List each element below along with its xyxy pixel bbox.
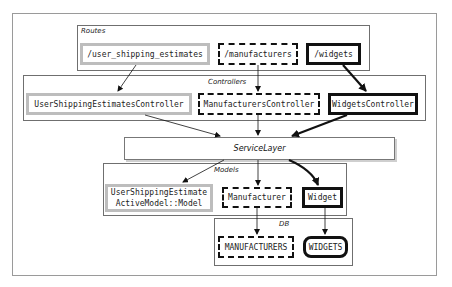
model-node-widget[interactable]: Widget — [302, 187, 343, 208]
model-name-label: UserShippingEstimate — [111, 187, 207, 198]
db-table-manufacturers[interactable]: MANUFACTURERS — [218, 236, 294, 258]
route-node-manufacturers[interactable]: /manufacturers — [218, 43, 298, 65]
route-node-widgets[interactable]: /widgets — [306, 43, 361, 65]
model-node-user-shipping-estimate[interactable]: UserShippingEstimate ActiveModel::Model — [105, 184, 213, 212]
models-group-label: Models — [214, 166, 239, 174]
service-layer-node[interactable]: ServiceLayer — [124, 137, 395, 160]
routes-group-label: Routes — [81, 27, 105, 35]
controller-node-manufacturers[interactable]: ManufacturersController — [198, 93, 320, 115]
route-node-user-shipping-estimates[interactable]: /user_shipping_estimates — [80, 43, 210, 65]
db-group-label: DB — [279, 220, 289, 228]
model-base-class-label: ActiveModel::Model — [116, 198, 203, 209]
controller-node-widgets[interactable]: WidgetsController — [328, 93, 418, 115]
controller-node-user-shipping-estimates[interactable]: UserShippingEstimatesController — [26, 93, 192, 115]
db-table-widgets[interactable]: WIDGETS — [303, 236, 348, 258]
model-node-manufacturer[interactable]: Manufacturer — [222, 187, 292, 208]
controllers-group-label: Controllers — [208, 78, 246, 86]
